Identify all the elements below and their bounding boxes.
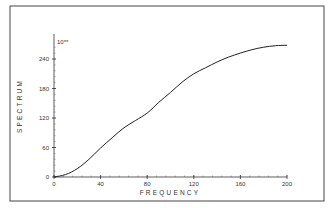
x-tick-label: 80 [144, 181, 151, 187]
x-tick-label: 0 [52, 181, 56, 187]
axes [54, 34, 287, 177]
spectrum-curve [54, 45, 287, 177]
x-tick-label: 200 [282, 181, 293, 187]
ticks: 04080120160200060120180240 [39, 47, 293, 187]
x-tick-label: 160 [235, 181, 246, 187]
y-scale-marker: 10** [57, 39, 69, 45]
x-tick-label: 40 [97, 181, 104, 187]
y-tick-label: 120 [39, 115, 50, 121]
x-axis-title: FREQUENCY [140, 189, 201, 197]
y-tick-label: 60 [42, 145, 49, 151]
y-tick-label: 240 [39, 56, 50, 62]
y-tick-label: 180 [39, 86, 50, 92]
spectrum-chart: 04080120160200060120180240 10** FREQUENC… [0, 0, 334, 208]
x-tick-label: 120 [189, 181, 200, 187]
chart-frame [10, 6, 324, 201]
y-axis-title: SPECTRUM [16, 79, 23, 133]
y-tick-label: 0 [46, 174, 50, 180]
